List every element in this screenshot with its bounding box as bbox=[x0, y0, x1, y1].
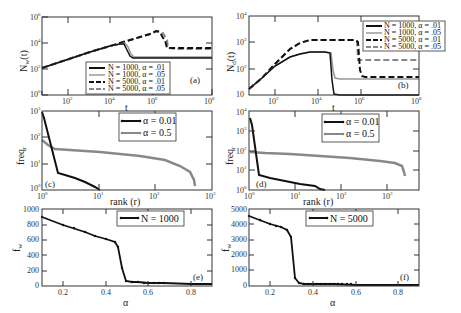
panel-tag-d: (d) bbox=[256, 179, 267, 189]
xtick-c-0: 100 bbox=[37, 191, 48, 201]
panel-c: 100 101 102 103 100 101 102 103 rank (r)… bbox=[15, 106, 216, 208]
xtick-b-3: 108 bbox=[411, 96, 422, 106]
ytick-a-1: 102 bbox=[30, 64, 41, 74]
panel-tag-b: (b) bbox=[398, 80, 409, 90]
ytick-d-1: 101 bbox=[236, 165, 247, 175]
xtick-d-0: 100 bbox=[244, 191, 255, 201]
ytick-c-1: 101 bbox=[30, 159, 41, 169]
panel-tag-a: (a) bbox=[190, 75, 200, 85]
legend-f-item-0: N = 5000 bbox=[330, 213, 368, 224]
panel-a: 100 102 104 106 102 104 106 108 t Nw(t) … bbox=[18, 12, 215, 113]
series-c-a05 bbox=[42, 140, 195, 186]
ytick-d-3: 103 bbox=[236, 126, 247, 136]
ytick-e-1: 200 bbox=[27, 266, 39, 275]
xtick-e-3: 0.8 bbox=[186, 288, 196, 297]
panel-d: 100 101 102 103 104 100 101 102 103 rank… bbox=[224, 107, 419, 208]
ytick-f-3: 3000 bbox=[231, 235, 247, 244]
xtick-d-2: 102 bbox=[336, 191, 347, 201]
legend-d-item-1: α = 0.5 bbox=[346, 128, 374, 139]
ytick-f-5: 5000 bbox=[231, 205, 247, 214]
panel-tag-e: (e) bbox=[193, 272, 203, 282]
xtick-d-3: 103 bbox=[382, 191, 393, 201]
ytick-b-2: 103 bbox=[236, 37, 247, 47]
xlabel-e: α bbox=[123, 297, 129, 308]
xtick-c-3: 103 bbox=[205, 191, 216, 201]
ytick-c-2: 102 bbox=[30, 132, 41, 142]
ytick-c-3: 103 bbox=[30, 106, 41, 116]
xtick-c-1: 101 bbox=[93, 191, 104, 201]
ytick-e-5: 1000 bbox=[23, 205, 39, 214]
legend-c-item-0: α = 0.01 bbox=[143, 115, 176, 126]
ytick-a-0: 100 bbox=[30, 89, 41, 99]
xtick-f-2: 0.6 bbox=[351, 288, 361, 297]
xtick-d-1: 101 bbox=[290, 191, 301, 201]
ytick-f-4: 4000 bbox=[231, 220, 247, 229]
xtick-e-0: 0.2 bbox=[58, 288, 68, 297]
legend-c: α = 0.01 α = 0.5 bbox=[119, 113, 176, 141]
ytick-d-2: 102 bbox=[236, 146, 247, 156]
ytick-e-3: 600 bbox=[27, 235, 39, 244]
ytick-e-4: 800 bbox=[27, 220, 39, 229]
ytick-d-4: 104 bbox=[236, 107, 247, 117]
ytick-a-3: 106 bbox=[30, 12, 41, 22]
ytick-f-0: 0 bbox=[243, 281, 247, 290]
ytick-a-2: 104 bbox=[30, 38, 41, 48]
xlabel-d: rank (r) bbox=[303, 196, 333, 208]
ytick-e-2: 400 bbox=[27, 251, 39, 260]
xtick-f-1: 0.4 bbox=[308, 288, 318, 297]
xtick-a-1: 104 bbox=[104, 96, 115, 106]
ytick-f-2: 2000 bbox=[231, 250, 247, 259]
legend-b-item-3: N = 5000, α = .05 bbox=[384, 42, 441, 51]
series-d-a05 bbox=[250, 152, 405, 176]
panel-b: 10 102 103 104 102 104 106 108 t Nd(t) (… bbox=[225, 11, 445, 113]
legend-e: N = 1000 bbox=[117, 211, 184, 226]
xtick-e-1: 0.4 bbox=[101, 288, 111, 297]
ytick-b-0: 10 bbox=[236, 90, 244, 99]
panel-f: 0 1000 2000 3000 4000 5000 0.2 0.4 0.6 0… bbox=[220, 205, 419, 308]
legend-a: N = 1000, α = .01 N = 1000, α = .05 N = … bbox=[86, 62, 170, 94]
panel-tag-f: (f) bbox=[400, 272, 409, 282]
panel-tag-c: (c) bbox=[45, 179, 55, 189]
xtick-a-0: 102 bbox=[62, 96, 73, 106]
xtick-e-2: 0.6 bbox=[143, 288, 153, 297]
legend-f: N = 5000 bbox=[306, 211, 373, 226]
legend-a-item-3: N = 5000, α = .05 bbox=[108, 84, 165, 93]
ylabel-c: freqr bbox=[15, 146, 28, 165]
xtick-b-0: 102 bbox=[268, 96, 279, 106]
ylabel-e: fw bbox=[11, 243, 24, 252]
xtick-c-2: 102 bbox=[149, 191, 160, 201]
xtick-b-2: 106 bbox=[354, 96, 365, 106]
ytick-e-0: 0 bbox=[35, 281, 39, 290]
figure-canvas: 100 102 104 106 102 104 106 108 t Nw(t) … bbox=[0, 0, 461, 313]
xtick-f-0: 0.2 bbox=[265, 288, 275, 297]
xtick-f-3: 0.8 bbox=[393, 288, 403, 297]
legend-b: N = 1000, α = .01 N = 1000, α = .05 N = … bbox=[363, 21, 445, 51]
series-b-n1000-a05 bbox=[249, 52, 419, 89]
panel-e: 0 200 400 600 800 1000 0.2 0.4 0.6 0.8 α… bbox=[11, 205, 212, 308]
xtick-a-2: 106 bbox=[147, 96, 158, 106]
legend-d-item-0: α = 0.01 bbox=[346, 116, 379, 127]
legend-d: α = 0.01 α = 0.5 bbox=[322, 114, 379, 142]
xtick-a-3: 108 bbox=[204, 96, 215, 106]
legend-c-item-1: α = 0.5 bbox=[143, 127, 171, 138]
series-e-n1000 bbox=[42, 217, 212, 284]
xlabel-c: rank (r) bbox=[110, 196, 140, 208]
ytick-f-1: 1000 bbox=[231, 265, 247, 274]
ytick-b-3: 104 bbox=[236, 11, 247, 21]
xtick-b-1: 104 bbox=[311, 96, 322, 106]
legend-e-item-0: N = 1000 bbox=[141, 213, 179, 224]
xlabel-f: α bbox=[330, 297, 336, 308]
